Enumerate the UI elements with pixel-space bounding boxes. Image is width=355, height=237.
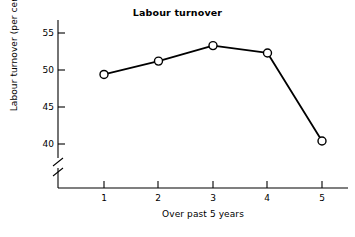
data-point-5	[318, 137, 326, 145]
chart-figure: Labour turnover Labour turnover (per cen…	[0, 0, 355, 237]
data-point-3	[209, 42, 217, 50]
data-point-4	[264, 49, 272, 57]
plot-area	[0, 0, 355, 237]
data-point-1	[100, 70, 108, 78]
data-line-series-1	[104, 46, 322, 141]
data-point-2	[155, 57, 163, 65]
y-axis-break-mark-upper	[53, 158, 63, 166]
